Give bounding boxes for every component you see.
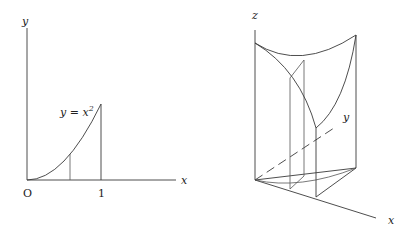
right-figure: z x y	[251, 9, 395, 227]
y-label-3d: y	[342, 111, 350, 124]
top-left-curve	[255, 43, 316, 128]
origin-label: O	[23, 187, 32, 200]
left-y-label: y	[21, 15, 29, 28]
left-figure: y x O 1 y = x2	[21, 15, 188, 200]
tick-label-1: 1	[98, 187, 105, 200]
left-x-label: x	[181, 174, 188, 187]
top-back-curve	[255, 35, 356, 56]
curve-label: y = x2	[59, 104, 94, 119]
slice-top-line	[290, 60, 304, 78]
figure-canvas: y x O 1 y = x2 z x y	[0, 0, 414, 231]
z-label: z	[251, 9, 258, 22]
top-right-curve	[316, 35, 356, 128]
x-label-3d: x	[388, 214, 395, 227]
x-axis-3d	[255, 180, 376, 218]
